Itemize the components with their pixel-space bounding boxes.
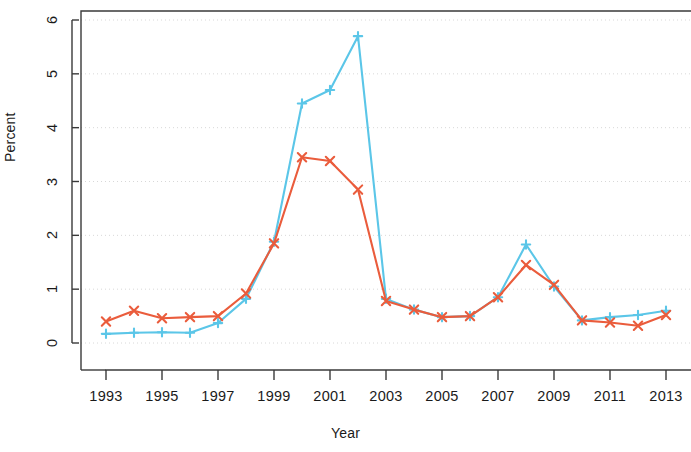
x-tick-label: 1997 xyxy=(201,388,234,404)
x-tick-label: 2013 xyxy=(649,388,682,404)
data-point xyxy=(158,328,166,336)
x-tick-label: 2001 xyxy=(313,388,346,404)
y-tick-label: 3 xyxy=(44,171,60,193)
plot-frame xyxy=(81,11,691,360)
x-axis xyxy=(81,360,691,380)
data-point xyxy=(102,330,110,338)
y-axis xyxy=(72,20,79,343)
plot-area xyxy=(0,0,691,452)
data-point xyxy=(634,311,642,319)
x-tick-label: 2009 xyxy=(537,388,570,404)
x-tick-label: 2003 xyxy=(369,388,402,404)
y-tick-label: 0 xyxy=(44,332,60,354)
series-blue-series xyxy=(102,32,670,338)
x-tick-label: 2007 xyxy=(481,388,514,404)
data-point xyxy=(354,32,362,40)
y-tick-label: 6 xyxy=(44,9,60,31)
x-axis-label: Year xyxy=(0,425,691,441)
chart-figure: Percent Year 0123456 1993199519971999200… xyxy=(0,0,691,452)
y-tick-label: 2 xyxy=(44,224,60,246)
data-point xyxy=(130,329,138,337)
y-tick-label: 1 xyxy=(44,278,60,300)
data-point xyxy=(326,86,334,94)
data-point xyxy=(522,261,530,269)
data-point xyxy=(298,99,306,107)
y-tick-label: 5 xyxy=(44,63,60,85)
y-tick-label: 4 xyxy=(44,117,60,139)
x-tick-label: 2011 xyxy=(594,388,626,404)
y-axis-label: Percent xyxy=(2,42,18,162)
x-tick-label: 1995 xyxy=(145,388,178,404)
data-point xyxy=(102,317,110,325)
data-point xyxy=(186,329,194,337)
x-tick-label: 1993 xyxy=(89,388,122,404)
x-tick-label: 1999 xyxy=(257,388,290,404)
x-tick-label: 2005 xyxy=(425,388,458,404)
